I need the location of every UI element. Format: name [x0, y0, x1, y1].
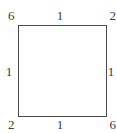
corner-label-top-left: 6 — [8, 9, 20, 22]
square-outline — [18, 25, 107, 117]
corner-label-top-right: 2 — [104, 9, 116, 22]
corner-label-bottom-right: 6 — [104, 118, 116, 131]
corner-label-bottom-left: 2 — [8, 118, 20, 131]
edge-label-left: 1 — [3, 65, 15, 78]
square-diagram: 6 1 2 1 1 2 1 6 — [0, 0, 117, 133]
edge-label-bottom: 1 — [53, 118, 67, 131]
edge-label-top: 1 — [53, 9, 67, 22]
edge-label-right: 1 — [105, 65, 117, 78]
